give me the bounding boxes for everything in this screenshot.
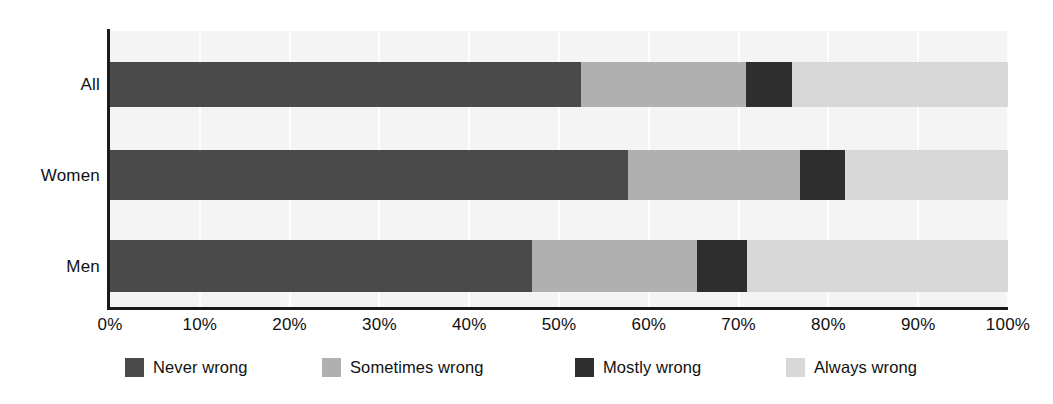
- chart-legend: Never wrongSometimes wrongMostly wrongAl…: [110, 358, 1010, 384]
- legend-label: Mostly wrong: [603, 359, 701, 376]
- x-axis-tick-label: 70%: [721, 316, 756, 333]
- legend-item[interactable]: Never wrong: [125, 358, 248, 377]
- bar-segment: [110, 150, 628, 200]
- y-axis-label: Women: [8, 167, 100, 184]
- x-axis-tick-label: 20%: [272, 316, 307, 333]
- bar-segment: [697, 240, 746, 292]
- legend-label: Sometimes wrong: [350, 359, 484, 376]
- legend-item[interactable]: Sometimes wrong: [322, 358, 484, 377]
- legend-swatch-icon: [786, 358, 805, 377]
- bar-segment: [110, 240, 532, 292]
- bar-segment: [747, 240, 1008, 292]
- bar-segment: [845, 150, 1008, 200]
- bar-segment: [800, 150, 845, 200]
- x-axis-tick-label: 30%: [362, 316, 397, 333]
- y-axis-spine: [107, 29, 110, 310]
- bar-segment: [746, 62, 793, 107]
- bar-segment: [581, 62, 745, 107]
- x-axis-tick-labels: 0%10%20%30%40%50%60%70%80%90%100%: [0, 316, 1053, 342]
- y-axis-labels: AllWomenMen: [0, 31, 100, 307]
- bar-segment: [628, 150, 800, 200]
- x-axis-tick-label: 60%: [631, 316, 666, 333]
- x-axis-tick-label: 10%: [182, 316, 217, 333]
- x-axis-tick-label: 100%: [986, 316, 1030, 333]
- x-axis-tick-label: 80%: [811, 316, 846, 333]
- legend-swatch-icon: [125, 358, 144, 377]
- x-axis-tick-label: 90%: [901, 316, 936, 333]
- legend-swatch-icon: [322, 358, 341, 377]
- bar-segment: [792, 62, 1008, 107]
- y-axis-label: Men: [8, 258, 100, 275]
- y-axis-label: All: [8, 76, 100, 93]
- legend-item[interactable]: Mostly wrong: [575, 358, 701, 377]
- bar-row: [110, 240, 1008, 292]
- legend-swatch-icon: [575, 358, 594, 377]
- x-axis-tick-label: 40%: [452, 316, 487, 333]
- legend-label: Never wrong: [153, 359, 248, 376]
- x-axis-tick-label: 0%: [98, 316, 123, 333]
- bar-segment: [110, 62, 581, 107]
- legend-label: Always wrong: [814, 359, 917, 376]
- x-axis-tick-label: 50%: [542, 316, 577, 333]
- bar-row: [110, 150, 1008, 200]
- legend-item[interactable]: Always wrong: [786, 358, 917, 377]
- plot-area: [110, 31, 1008, 307]
- bar-row: [110, 62, 1008, 107]
- bar-segment: [532, 240, 697, 292]
- x-axis-spine: [107, 307, 1008, 310]
- stacked-bar-chart: AllWomenMen 0%10%20%30%40%50%60%70%80%90…: [0, 0, 1053, 404]
